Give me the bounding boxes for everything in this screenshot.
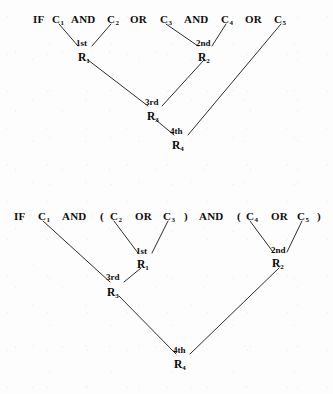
edge-C1-to-R3 (43, 221, 110, 282)
edge-C4-to-R2 (212, 24, 226, 46)
expression-token-paren: ( (237, 211, 241, 222)
edge-R3-to-R4 (119, 296, 176, 354)
token-subscript: 3 (171, 216, 175, 224)
order-label-3rd: 3rd (145, 98, 159, 107)
expression-token-C4: C4 (246, 211, 258, 224)
node-subscript: 4 (180, 145, 184, 153)
result-node-R4: R4 (172, 140, 184, 154)
result-node-R2: R2 (272, 258, 284, 272)
node-subscript: 3 (115, 292, 119, 300)
expression-token-C3: C3 (163, 211, 175, 224)
expression-token-C5: C5 (274, 14, 286, 27)
edge-C4-to-R2 (250, 221, 273, 252)
token-subscript: 1 (46, 216, 50, 224)
order-label-4th: 4th (173, 346, 186, 355)
result-node-R1: R1 (137, 259, 149, 273)
scan-grain-overlay (0, 0, 333, 394)
expression-token-C4: C4 (221, 14, 233, 27)
expression-token-OR: OR (135, 211, 152, 222)
expression-token-C2: C2 (107, 14, 119, 27)
token-subscript: 5 (305, 216, 309, 224)
node-subscript: 2 (206, 57, 210, 65)
order-label-1st: 1st (76, 39, 87, 48)
order-label-4th: 4th (170, 127, 183, 136)
expression-token-OR: OR (130, 14, 147, 25)
order-label-2nd: 2nd (271, 246, 286, 255)
expression-token-C2: C2 (110, 211, 122, 224)
edge-C2-to-R1 (92, 24, 111, 46)
token-subscript: 2 (118, 216, 122, 224)
token-subscript: 4 (254, 216, 258, 224)
edge-C2-to-R1 (114, 221, 138, 253)
expression-token-C3: C3 (160, 14, 172, 27)
expression-token-AND: AND (71, 14, 95, 25)
expression-token-IF: IF (14, 211, 25, 222)
connector-lines (0, 0, 333, 394)
edge-C3-to-R1 (152, 221, 168, 253)
expression-token-OR: OR (245, 14, 262, 25)
node-subscript: 3 (155, 116, 159, 124)
expression-token-C5: C5 (297, 211, 309, 224)
token-subscript: 2 (115, 19, 119, 27)
token-subscript: 1 (60, 19, 64, 27)
edge-R2-to-R4 (190, 268, 279, 354)
order-label-3rd: 3rd (106, 273, 120, 282)
order-label-1st: 1st (136, 247, 147, 256)
expression-token-paren: ( (100, 211, 104, 222)
expression-token-C1: C1 (38, 211, 50, 224)
result-node-R3: R3 (107, 287, 119, 301)
result-node-R2: R2 (198, 52, 210, 66)
node-subscript: 1 (86, 57, 90, 65)
node-subscript: 4 (182, 364, 186, 372)
result-node-R4: R4 (174, 359, 186, 373)
edge-R1-to-R3 (88, 60, 148, 106)
token-subscript: 4 (229, 19, 233, 27)
result-node-R1: R1 (78, 52, 90, 66)
expression-token-AND: AND (62, 211, 86, 222)
expression-token-C1: C1 (52, 14, 64, 27)
expression-token-paren: ) (184, 211, 188, 222)
expression-token-AND: AND (184, 14, 208, 25)
node-subscript: 1 (145, 264, 149, 272)
expression-token-paren: ) (317, 211, 321, 222)
token-subscript: 3 (168, 19, 172, 27)
edge-C5-to-R2 (287, 221, 302, 252)
node-subscript: 2 (280, 263, 284, 271)
figure-root: IFC1ANDC2ORC3ANDC4ORC5 1st2nd3rd4th R1R2… (0, 0, 333, 394)
token-subscript: 5 (282, 19, 286, 27)
result-node-R3: R3 (147, 111, 159, 125)
expression-token-IF: IF (33, 14, 44, 25)
edge-C3-to-R2 (166, 24, 198, 46)
expression-token-AND: AND (199, 211, 223, 222)
edge-R2-to-R3 (162, 60, 204, 106)
order-label-2nd: 2nd (196, 39, 211, 48)
expression-token-OR: OR (271, 211, 288, 222)
